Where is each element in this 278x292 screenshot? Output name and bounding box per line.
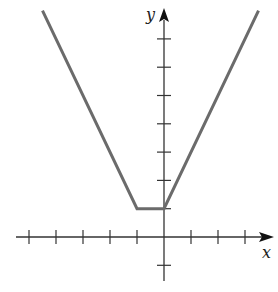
x-axis	[16, 232, 274, 242]
x-axis-label: x	[262, 243, 271, 262]
chart: x y	[0, 0, 278, 292]
y-axis	[159, 8, 169, 281]
curve	[43, 11, 259, 209]
plot-canvas: x y	[0, 0, 278, 292]
y-axis-arrow-icon	[159, 8, 169, 22]
y-axis-label: y	[145, 5, 156, 24]
